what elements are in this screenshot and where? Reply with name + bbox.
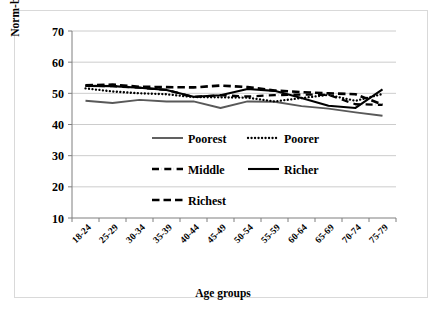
chart-svg: 10203040506070 18-2425-2930-3435-3940-44… — [0, 0, 446, 323]
data-series-group — [86, 85, 383, 116]
x-tick-label: 50-54 — [232, 222, 255, 245]
y-tick-label: 10 — [52, 212, 64, 226]
x-tick-label: 70-74 — [340, 222, 363, 245]
series-line-poorest — [86, 100, 383, 116]
x-tick-label: 60-64 — [286, 222, 309, 245]
x-tick-label: 65-69 — [313, 222, 336, 245]
x-tick-marks — [72, 218, 396, 222]
gridlines — [68, 31, 396, 218]
x-tick-label: 18-24 — [70, 222, 93, 245]
x-tick-label: 30-34 — [124, 222, 147, 245]
x-tick-label: 75-79 — [367, 222, 390, 245]
x-tick-label: 55-59 — [259, 222, 282, 245]
legend-label-poorest: Poorest — [188, 132, 226, 146]
y-tick-labels: 10203040506070 — [52, 25, 64, 226]
legend-label-richer: Richer — [284, 163, 319, 177]
y-tick-label: 70 — [52, 25, 64, 39]
plot-area: 10203040506070 18-2425-2930-3435-3940-44… — [0, 0, 446, 323]
chart-legend: PoorestPoorerMiddleRicherRichest — [152, 132, 320, 208]
legend-label-richest: Richest — [188, 194, 226, 208]
legend-label-middle: Middle — [188, 163, 225, 177]
y-tick-label: 30 — [52, 149, 64, 163]
chart-figure: Norm-based scores Age groups 10203040506… — [0, 0, 446, 323]
x-tick-labels: 18-2425-2930-3435-3940-4445-4950-5455-59… — [70, 222, 390, 245]
x-tick-label: 35-39 — [151, 222, 174, 245]
series-line-middle — [86, 86, 383, 105]
y-tick-label: 50 — [52, 87, 64, 101]
legend-label-poorer: Poorer — [284, 132, 320, 146]
x-tick-label: 45-49 — [205, 222, 228, 245]
x-tick-label: 40-44 — [178, 222, 201, 245]
y-tick-label: 60 — [52, 56, 64, 70]
y-tick-label: 40 — [52, 118, 64, 132]
y-tick-label: 20 — [52, 180, 64, 194]
x-tick-label: 25-29 — [97, 222, 120, 245]
